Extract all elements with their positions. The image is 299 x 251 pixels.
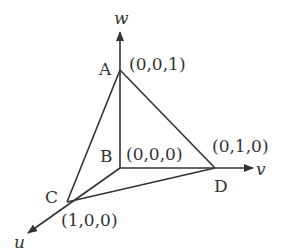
edge-a-c [67, 70, 120, 202]
axis-label-w: w [114, 8, 129, 28]
vertex-label-b: B [100, 146, 113, 166]
vertex-label-c: C [45, 187, 58, 207]
axis-label-v: v [256, 159, 266, 179]
coords-label-a: (0,0,1) [129, 54, 186, 74]
coords-label-b: (0,0,0) [126, 144, 183, 164]
edge-c-d [67, 168, 215, 202]
coords-label-c: (1,0,0) [61, 210, 118, 230]
axis-label-u: u [14, 232, 25, 251]
vertex-label-d: D [214, 176, 228, 196]
tetrahedron-diagram: w v u A B C D (0,0,1) (0,0,0) (1,0,0) (0… [0, 0, 299, 251]
coords-label-d: (0,1,0) [212, 136, 269, 156]
vertex-label-a: A [98, 59, 112, 79]
